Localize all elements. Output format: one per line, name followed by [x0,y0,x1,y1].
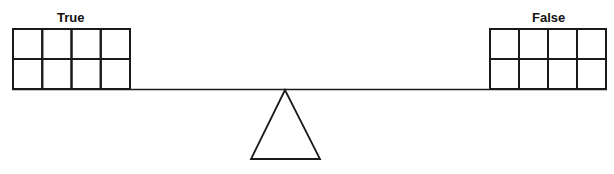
grid-cell [548,29,577,59]
grid-cell [13,29,42,59]
left-pan-grid [13,29,130,89]
grid-cell [577,29,606,59]
grid-cell [42,59,71,89]
grid-cell [490,29,519,59]
grid-cell [548,59,577,89]
grid-cell [101,29,130,59]
grid-cell [519,59,548,89]
grid-cell [72,29,101,59]
grid-cell [577,59,606,89]
fulcrum-triangle [251,90,320,159]
balance-scale [0,0,614,174]
grid-cell [72,59,101,89]
grid-cell [490,59,519,89]
right-pan-grid [490,29,606,89]
grid-cell [101,59,130,89]
grid-cell [42,29,71,59]
grid-cell [519,29,548,59]
grid-cell [13,59,42,89]
